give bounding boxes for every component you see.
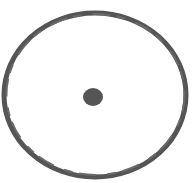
center-dot xyxy=(83,88,103,106)
circle-with-center-dot-drawing xyxy=(0,0,196,183)
